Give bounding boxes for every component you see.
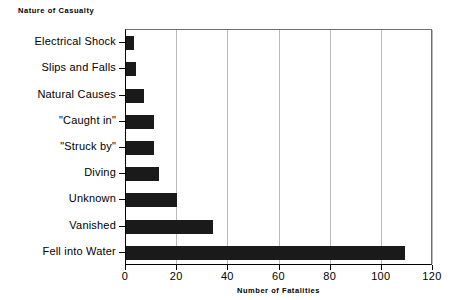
x-tick-label: 40 xyxy=(207,271,247,282)
category-label: Electrical Shock xyxy=(0,36,116,47)
bar xyxy=(126,220,213,234)
category-label: Unknown xyxy=(0,193,116,204)
x-tick-label: 120 xyxy=(412,271,452,282)
category-label: Natural Causes xyxy=(0,89,116,100)
y-tick-mark xyxy=(119,147,125,148)
bar xyxy=(126,193,177,207)
y-tick-mark xyxy=(119,226,125,227)
x-tick-label: 0 xyxy=(105,271,145,282)
x-tick-label: 80 xyxy=(310,271,350,282)
gridline-x-40 xyxy=(227,30,228,264)
category-label: "Struck by" xyxy=(0,141,116,152)
gridline-x-100 xyxy=(381,30,382,264)
bar xyxy=(126,167,159,181)
x-tick-label: 20 xyxy=(156,271,196,282)
bar xyxy=(126,89,144,103)
y-tick-mark xyxy=(119,121,125,122)
gridline-x-60 xyxy=(279,30,280,264)
gridline-x-120 xyxy=(432,30,433,264)
category-label: Slips and Falls xyxy=(0,62,116,73)
x-tick-label: 100 xyxy=(361,271,401,282)
plot-area xyxy=(125,29,432,265)
gridline-x-80 xyxy=(330,30,331,264)
bar-chart: Nature of Casualty Electrical ShockSlips… xyxy=(0,0,465,300)
category-label: Fell into Water xyxy=(0,246,116,257)
category-label-column: Electrical ShockSlips and FallsNatural C… xyxy=(0,30,116,265)
y-tick-mark xyxy=(119,173,125,174)
y-tick-mark xyxy=(119,68,125,69)
y-tick-mark xyxy=(119,42,125,43)
x-axis-title: Number of Fatalities xyxy=(125,286,432,295)
bar xyxy=(126,62,136,76)
bar xyxy=(126,141,154,155)
y-tick-mark xyxy=(119,95,125,96)
bar xyxy=(126,36,134,50)
y-axis-title: Nature of Casualty xyxy=(18,6,94,15)
category-label: Diving xyxy=(0,167,116,178)
category-label: "Caught in" xyxy=(0,115,116,126)
category-label: Vanished xyxy=(0,220,116,231)
bar xyxy=(126,246,405,260)
y-tick-mark xyxy=(119,199,125,200)
y-tick-mark xyxy=(119,252,125,253)
bar xyxy=(126,115,154,129)
x-tick-label: 60 xyxy=(259,271,299,282)
